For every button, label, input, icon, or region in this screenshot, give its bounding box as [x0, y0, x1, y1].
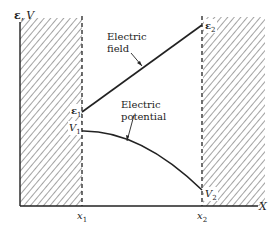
y-axis-label-potential: V: [26, 9, 35, 22]
x-axis-label: X: [258, 200, 268, 213]
x2-subscript: 2: [203, 216, 207, 224]
v1-subscript: 1: [76, 128, 80, 136]
right-electrode-hatch: [203, 17, 265, 206]
e2-subscript: 2: [211, 26, 215, 34]
electric-potential-curve: [82, 131, 202, 190]
x1-subscript: 1: [83, 216, 87, 224]
field-label-line2: field: [107, 43, 130, 54]
svg-text:x1: x1: [77, 210, 87, 224]
field-leader-arrowhead: [137, 61, 142, 66]
y-axis-label-sep: ,: [21, 9, 25, 22]
potential-label-line1: Electric: [121, 99, 161, 110]
electric-field-potential-diagram: ε,V X x1 x2 ε1 V1 ε2 V2 Electric field E…: [0, 0, 277, 236]
v2-subscript: 2: [212, 194, 216, 202]
svg-text:x2: x2: [197, 210, 207, 224]
field-label-line1: Electric: [107, 31, 147, 42]
e1-subscript: 1: [77, 111, 81, 119]
potential-label-line2: potential: [121, 111, 166, 122]
